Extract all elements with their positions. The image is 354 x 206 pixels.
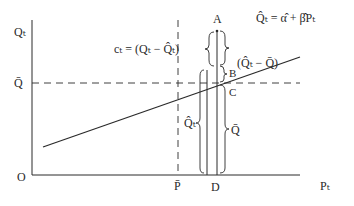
deviation-fit-annotation: (Q̂ₜ − Q̄) — [237, 57, 278, 69]
residual-brace — [205, 32, 214, 66]
regression-line — [43, 57, 300, 147]
x-axis-label: Pₜ — [320, 180, 330, 192]
b-brace — [220, 66, 227, 82]
fitted-brace — [196, 70, 204, 173]
y-axis-label: Qₜ — [14, 26, 26, 38]
mean-annotation: Q̄ — [231, 124, 240, 136]
origin-label: O — [17, 171, 26, 183]
p-mean-label: P̄ — [174, 180, 181, 192]
point-a-marker — [216, 30, 219, 33]
regression-equation: Q̂ₜ = α̂ + β̂Pₜ — [256, 12, 315, 24]
diagram-canvas — [0, 0, 354, 206]
point-c-label: C — [229, 87, 236, 98]
point-a-label: A — [213, 13, 222, 25]
residual-annotation: cₜ = (Qₜ − Q̂ₜ) — [114, 43, 179, 55]
q-mean-label: Q̄ — [14, 77, 23, 89]
q-mean-brace — [220, 85, 229, 173]
d-label: D — [211, 181, 220, 193]
point-b-label: B — [229, 68, 236, 79]
a-b-brace — [220, 31, 229, 65]
fitted-annotation: Q̂ₜ — [184, 117, 196, 129]
